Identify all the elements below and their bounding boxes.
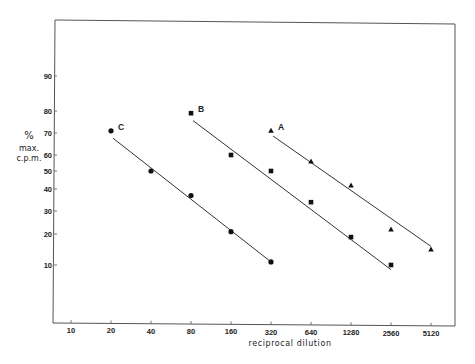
data-point-B: [189, 111, 194, 116]
y-tick-label: 40: [44, 185, 52, 194]
y-tick-label: 10: [44, 261, 52, 270]
y-axis-title-line-3: c.p.m.: [17, 154, 42, 163]
chart: 102030405060708090 102040801603206401280…: [0, 0, 475, 364]
plot-frame: [53, 20, 455, 326]
x-tick-label: 20: [107, 326, 115, 335]
data-point-C: [148, 168, 153, 173]
data-point-C: [188, 193, 193, 198]
y-axis-title: % max. c.p.m.: [17, 130, 42, 163]
data-point-B: [229, 153, 234, 158]
y-ticks: 102030405060708090: [44, 72, 57, 270]
data-point-A: [268, 128, 274, 133]
y-tick-label: 90: [44, 72, 52, 81]
y-tick-label: 50: [44, 167, 52, 176]
data-point-A: [348, 182, 354, 187]
series-label-A: A: [278, 122, 284, 132]
x-axis-title: reciprocal dilution: [248, 339, 331, 348]
series-label-B: B: [198, 104, 204, 114]
series-C: C: [108, 122, 273, 265]
series-label-C: C: [118, 122, 124, 132]
data-point-B: [389, 263, 394, 268]
data-point-B: [309, 200, 314, 205]
data-point-C: [108, 128, 113, 133]
y-tick-label: 20: [44, 230, 52, 239]
x-ticks: 10204080160320640128025605120: [67, 320, 440, 338]
y-tick-label: 30: [44, 207, 52, 216]
data-point-A: [428, 247, 434, 252]
x-tick-label: 2560: [383, 329, 400, 338]
frame-top: [55, 20, 455, 24]
y-axis-title-line-2: max.: [19, 144, 39, 153]
fit-line-B: [193, 121, 391, 270]
y-axis: [53, 20, 55, 323]
y-tick-label: 80: [44, 107, 52, 116]
x-tick-label: 80: [187, 327, 195, 336]
series-A: A: [268, 122, 434, 252]
x-tick-label: 640: [305, 328, 318, 337]
fit-line-C: [113, 138, 271, 262]
x-tick-label: 160: [225, 327, 238, 336]
x-tick-label: 40: [147, 327, 155, 336]
x-tick-label: 320: [265, 328, 278, 337]
y-tick-label: 60: [44, 151, 52, 160]
data-point-B: [349, 235, 354, 240]
y-tick-label: 70: [44, 129, 52, 138]
data-point-A: [388, 226, 394, 231]
series-B: B: [189, 104, 394, 269]
data-point-C: [268, 259, 273, 264]
y-axis-title-line-1: %: [24, 130, 34, 141]
series-layer: CBA: [108, 104, 433, 269]
data-point-B: [269, 169, 274, 174]
fit-line-A: [273, 136, 431, 246]
x-tick-label: 5120: [423, 329, 440, 338]
x-tick-label: 10: [67, 326, 75, 335]
x-tick-label: 1280: [343, 328, 360, 337]
data-point-C: [228, 229, 233, 234]
